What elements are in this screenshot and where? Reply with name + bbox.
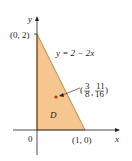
- diagram-canvas: y x (0, 2) (1, 0) 0 y = 2 − 2x D ( 3 8 ,…: [0, 0, 132, 161]
- centroid-point: [54, 95, 57, 98]
- point-label-0-2: (0, 2): [10, 30, 30, 40]
- curve-label: y = 2 − 2x: [55, 48, 94, 58]
- centroid-label: ( 3 8 , 11 16 ): [80, 81, 108, 99]
- x-axis-arrow-icon: [115, 128, 120, 132]
- svg-text:,: ,: [91, 87, 93, 97]
- y-axis-arrow-icon: [35, 16, 39, 21]
- point-label-1-0: (1, 0): [72, 135, 92, 145]
- svg-text:): ): [105, 85, 108, 95]
- svg-text:16: 16: [95, 89, 105, 99]
- svg-text:8: 8: [85, 89, 90, 99]
- region-label: D: [49, 110, 57, 120]
- x-axis-label: x: [114, 134, 119, 144]
- svg-text:(: (: [80, 85, 83, 95]
- y-axis-label: y: [27, 14, 32, 24]
- origin-label: 0: [28, 134, 33, 144]
